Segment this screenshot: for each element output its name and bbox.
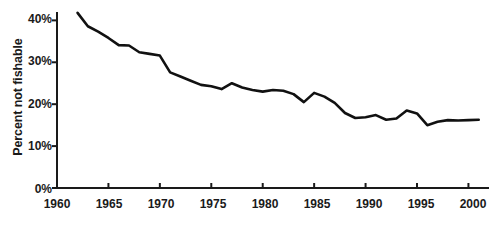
data-series-line [78, 13, 479, 125]
plot-area [0, 0, 503, 229]
chart-container: Percent not fishable 0% 10% 20% 30% 40% … [0, 0, 503, 229]
axis-lines [57, 12, 489, 188]
